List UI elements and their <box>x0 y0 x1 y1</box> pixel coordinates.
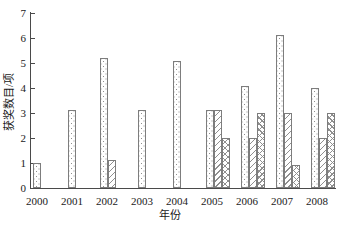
x-tick-label: 2004 <box>161 195 193 207</box>
bar-stipple-series-2003 <box>138 110 146 188</box>
bar-stipple-series-2000 <box>33 163 41 188</box>
y-tick-mark <box>31 138 35 139</box>
bar-diagonal-series-2007 <box>284 113 292 188</box>
x-tick-label: 2008 <box>301 195 333 207</box>
bar-diagonal-series-2008 <box>319 138 327 188</box>
x-tick-label: 2005 <box>196 195 228 207</box>
bar-diagonal-series-2005 <box>214 110 222 188</box>
bar-crosshatch-series-2005 <box>222 138 230 188</box>
bar-stipple-series-2005 <box>206 110 214 188</box>
bar-stipple-series-2006 <box>241 86 249 188</box>
y-tick-label: 6 <box>0 32 26 44</box>
bar-crosshatch-series-2007 <box>292 165 300 188</box>
x-axis-line <box>30 188 336 189</box>
y-tick-label: 0 <box>0 182 26 194</box>
x-tick-label: 2001 <box>56 195 88 207</box>
x-tick-label: 2003 <box>126 195 158 207</box>
bar-diagonal-series-2002 <box>108 160 116 188</box>
bar-diagonal-series-2006 <box>249 138 257 188</box>
bar-stipple-series-2004 <box>173 61 181 188</box>
y-tick-mark <box>31 38 35 39</box>
x-tick-label: 2006 <box>231 195 263 207</box>
bar-chart: 0123456720002001200220032004200520062007… <box>0 0 340 227</box>
y-axis-title: 获奖数目/项 <box>2 62 16 142</box>
x-tick-label: 2000 <box>21 195 53 207</box>
y-tick-mark <box>31 88 35 89</box>
bar-stipple-series-2008 <box>311 88 319 188</box>
x-tick-label: 2002 <box>91 195 123 207</box>
bar-crosshatch-series-2008 <box>327 113 335 188</box>
bar-stipple-series-2002 <box>100 58 108 188</box>
y-tick-mark <box>31 13 35 14</box>
y-tick-mark <box>31 188 35 189</box>
x-axis-title: 年份 <box>150 209 190 221</box>
x-tick-label: 2007 <box>266 195 298 207</box>
bar-crosshatch-series-2006 <box>257 113 265 188</box>
y-tick-mark <box>31 113 35 114</box>
bar-stipple-series-2007 <box>276 35 284 188</box>
bar-stipple-series-2001 <box>68 110 76 188</box>
y-tick-mark <box>31 63 35 64</box>
y-tick-label: 7 <box>0 7 26 19</box>
y-tick-label: 1 <box>0 157 26 169</box>
